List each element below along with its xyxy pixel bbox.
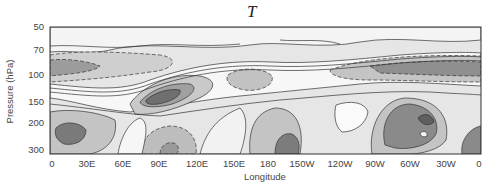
contour-fills — [50, 27, 481, 154]
y-axis-label: Pressure (hPa) — [4, 60, 15, 124]
contour-chart — [0, 0, 500, 187]
x-tick-label: 60W — [400, 158, 420, 169]
x-tick-label: 30E — [79, 158, 96, 169]
x-tick-label: 60E — [115, 158, 132, 169]
y-tick-label: 300 — [28, 144, 44, 155]
chart-title: T — [247, 2, 256, 22]
x-tick-label: 0 — [476, 158, 481, 169]
x-tick-label: 90W — [365, 158, 385, 169]
x-tick-label: 150E — [223, 158, 245, 169]
y-tick-label: 100 — [28, 69, 44, 80]
x-tick-label: 150W — [290, 158, 315, 169]
y-tick-label: 50 — [33, 21, 44, 32]
y-tick-label: 150 — [28, 96, 44, 107]
y-tick-label: 200 — [28, 117, 44, 128]
x-tick-label: 120W — [328, 158, 353, 169]
x-axis-label: Longitude — [244, 171, 286, 182]
x-tick-label: 180 — [260, 158, 276, 169]
y-tick-label: 70 — [33, 44, 44, 55]
x-tick-label: 30W — [436, 158, 456, 169]
x-tick-label: 120E — [186, 158, 208, 169]
x-tick-label: 0 — [49, 158, 54, 169]
x-tick-label: 90E — [151, 158, 168, 169]
